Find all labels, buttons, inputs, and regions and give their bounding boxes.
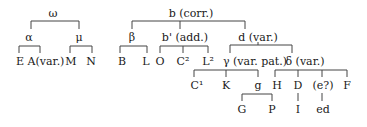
node-omega: ω [49, 8, 58, 20]
node-C1: C¹ [191, 80, 204, 92]
node-L2: L² [202, 56, 214, 68]
edge-beta [120, 46, 147, 53]
node-b: b (corr.) [169, 8, 214, 20]
node-e: (e?) [313, 80, 334, 92]
node-bprime: b' (add.) [162, 32, 208, 44]
node-F: F [343, 80, 351, 92]
node-ed: ed [316, 104, 330, 116]
edge-g [242, 94, 272, 101]
node-I: I [296, 104, 300, 116]
node-gamma: γ (var. pat.) [223, 56, 287, 68]
node-A: A(var.) [28, 56, 65, 68]
node-g: g [254, 80, 261, 92]
node-delta: δ (var.) [285, 56, 324, 68]
node-B: B [118, 56, 126, 68]
edge-mu [70, 46, 92, 53]
node-C2: C² [177, 56, 190, 68]
node-N: N [86, 56, 96, 68]
node-H: H [272, 80, 282, 92]
edge-alpha [19, 46, 40, 53]
edge-gamma [194, 70, 258, 77]
node-alpha: α [25, 32, 32, 44]
edge-omega [31, 21, 79, 29]
node-P: P [268, 104, 275, 116]
node-beta: β [129, 32, 135, 44]
node-mu: μ [75, 32, 82, 44]
edge-bprime [160, 46, 208, 53]
node-M: M [65, 56, 76, 68]
node-E: E [16, 56, 24, 68]
edge-b [132, 21, 245, 29]
node-d: d (var.) [238, 32, 277, 44]
node-L: L [142, 56, 149, 68]
edge-delta [275, 70, 347, 77]
node-D: D [294, 80, 303, 92]
node-O: O [155, 56, 164, 68]
node-K: K [222, 80, 230, 92]
node-G: G [238, 104, 247, 116]
